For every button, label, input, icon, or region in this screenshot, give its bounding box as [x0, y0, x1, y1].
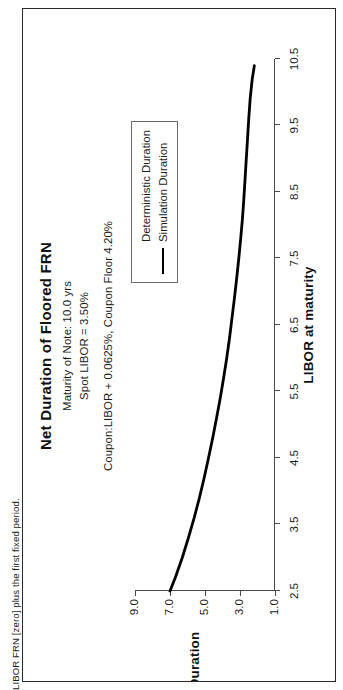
legend-item-deterministic: Deterministic Duration — [137, 130, 154, 274]
y-axis-title: Duration — [187, 605, 202, 682]
x-axis-title: LIBOR at maturity — [301, 59, 316, 591]
y-tick-label: 7.0 — [162, 599, 175, 637]
x-tick-mark — [275, 391, 280, 392]
x-tick-label: 10.5 — [287, 39, 300, 79]
y-tick-mark — [135, 591, 136, 596]
chart-subtitle-coupon: Coupon:LIBOR + 0.0625%, Coupon Floor 4.2… — [102, 9, 114, 682]
legend-label-simulation: Simulation Duration — [157, 143, 169, 242]
legend-label-deterministic: Deterministic Duration — [140, 130, 152, 242]
y-tick-mark — [240, 591, 241, 596]
y-tick-mark — [275, 591, 276, 596]
x-tick-label: 3.5 — [287, 505, 300, 545]
chart-subtitle-spot-libor: Spot LIBOR = 3.50% — [78, 9, 90, 682]
x-tick-mark — [275, 191, 280, 192]
x-tick-label: 9.5 — [287, 106, 300, 146]
figure-caption-block: LIBOR FRN [zero] plus the first fixed pe… — [0, 0, 22, 690]
chart-title: Net Duration of Floored FRN — [37, 9, 54, 682]
y-tick-label: 1.0 — [267, 599, 280, 637]
x-tick-mark — [275, 457, 280, 458]
x-tick-mark — [275, 524, 280, 525]
x-tick-label: 2.5 — [287, 571, 300, 611]
x-tick-label: 5.5 — [287, 372, 300, 412]
x-tick-label: 4.5 — [287, 438, 300, 478]
legend-swatch-line-icon — [157, 248, 169, 274]
x-tick-label: 7.5 — [287, 239, 300, 279]
x-tick-mark — [275, 58, 280, 59]
figure-caption: LIBOR FRN [zero] plus the first fixed pe… — [11, 498, 21, 690]
chart-legend: Deterministic Duration Simulation Durati… — [131, 121, 178, 283]
chart-stage: Net Duration of Floored FRN Maturity of … — [23, 9, 335, 682]
x-tick-mark — [275, 125, 280, 126]
chart-subtitle-maturity: Maturity of Note: 10.0 yrs — [61, 9, 73, 682]
x-tick-label: 6.5 — [287, 305, 300, 345]
figure-frame: Net Duration of Floored FRN Maturity of … — [22, 8, 336, 682]
x-tick-label: 8.5 — [287, 172, 300, 212]
y-tick-label: 9.0 — [127, 599, 140, 637]
y-tick-label: 3.0 — [232, 599, 245, 637]
x-tick-mark — [275, 258, 280, 259]
x-tick-mark — [275, 324, 280, 325]
legend-swatch-blank-icon — [140, 248, 152, 274]
legend-item-simulation: Simulation Duration — [154, 130, 171, 274]
y-tick-mark — [205, 591, 206, 596]
